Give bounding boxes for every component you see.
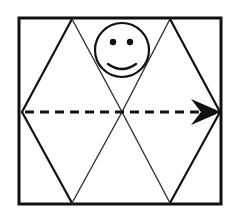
smiley-right-eye (127, 39, 133, 45)
diagram-svg (0, 0, 234, 217)
diagram-canvas (0, 0, 234, 217)
smiley-face-icon (95, 23, 149, 77)
smiley-left-eye (110, 39, 116, 45)
